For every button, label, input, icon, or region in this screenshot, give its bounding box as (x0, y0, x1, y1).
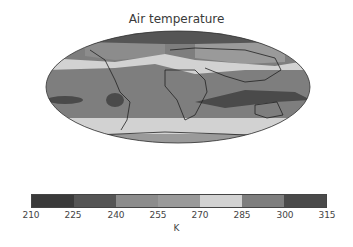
colorbar-bin (74, 195, 116, 207)
colorbar-bin (158, 195, 200, 207)
colorbar-bin (284, 195, 326, 207)
colorbar-bin (116, 195, 158, 207)
colorbar-bin (200, 195, 242, 207)
chart-title: Air temperature (0, 12, 353, 26)
tick-label: 210 (22, 210, 39, 220)
colorbar-unit-label: K (0, 223, 353, 233)
tick-label: 285 (233, 210, 250, 220)
world-map (45, 30, 311, 144)
tick-label: 240 (107, 210, 124, 220)
colorbar-bin (32, 195, 74, 207)
tick-label: 255 (149, 210, 166, 220)
tick-label: 300 (276, 210, 293, 220)
colorbar-bin (242, 195, 284, 207)
colorbar-ticks: 210 225 240 255 270 285 300 315 (0, 210, 353, 222)
colorbar (31, 194, 327, 208)
tick-label: 225 (64, 210, 81, 220)
tick-label: 315 (318, 210, 335, 220)
tick-label: 270 (191, 210, 208, 220)
